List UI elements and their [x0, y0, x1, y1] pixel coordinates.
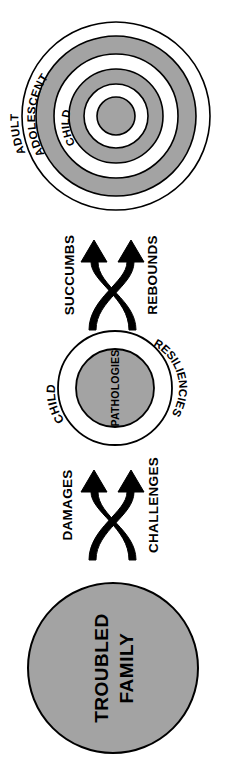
connector-succumbs-rebounds: SUCCUMBS REBOUNDS [62, 235, 160, 330]
child-node-circle: CHILD RESILIENCIES PATHOLOGIES [44, 331, 189, 445]
connector-label-succumbs: SUCCUMBS [62, 235, 77, 315]
connector-label-damages: DAMAGES [60, 469, 75, 540]
connector-damages-challenges: DAMAGES CHALLENGES [60, 457, 161, 560]
connector-label-challenges: CHALLENGES [146, 457, 161, 553]
ring-child-core [97, 97, 135, 135]
family-label-line2: FAMILY [116, 633, 137, 704]
family-circle-shape [28, 583, 198, 753]
diagram-canvas: ADULT ADOLESCENT CHILD SUCCUMBS REBOUNDS… [0, 0, 226, 772]
pathologies-label: PATHOLOGIES [109, 349, 121, 426]
connector-label-rebounds: REBOUNDS [145, 235, 160, 315]
outcome-concentric-circle: ADULT ADOLESCENT CHILD [8, 22, 210, 210]
troubled-family-circle: TROUBLED FAMILY [28, 583, 198, 753]
family-label-line1: TROUBLED [91, 613, 112, 723]
